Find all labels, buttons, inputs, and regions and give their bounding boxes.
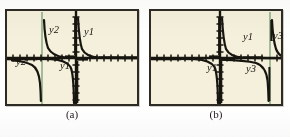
curve-label-a-y1-lower: y1 — [60, 61, 70, 72]
calculator-screen-b — [149, 9, 283, 106]
curve-label-b-y1-lower: y1 — [207, 63, 217, 74]
curve-label-b-y3-upper: y3 — [273, 31, 283, 42]
caption-b: (b) — [149, 108, 283, 120]
figure-container: y2 y1 y2 y1 (a) — [0, 0, 290, 137]
curve-label-a-y1-upper: y1 — [84, 27, 94, 38]
curve-label-a-y2-lower: y2 — [16, 57, 26, 68]
curve-label-b-y1-upper: y1 — [243, 32, 253, 43]
axis-overlap-thickening — [151, 17, 271, 103]
caption-a: (a) — [5, 108, 139, 120]
graph-plot-a — [7, 11, 139, 106]
graph-panel-b — [149, 9, 283, 106]
curve-y3-lower — [221, 60, 269, 101]
graph-plot-b — [151, 11, 283, 106]
curve-y1-upper-right — [78, 18, 139, 58]
curve-label-a-y2-upper: y2 — [49, 25, 59, 36]
curve-label-b-y3-lower: y3 — [246, 64, 256, 75]
